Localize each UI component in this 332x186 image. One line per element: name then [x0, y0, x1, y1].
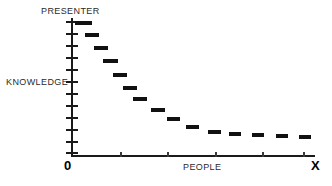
x-axis-tick	[215, 152, 217, 157]
y-axis-tick	[66, 129, 78, 131]
data-point-marker	[208, 130, 221, 134]
x-axis-tick	[167, 152, 169, 157]
data-point-marker	[276, 134, 288, 138]
y-axis-line	[71, 18, 73, 157]
y-axis-top-label: PRESENTER	[41, 7, 100, 16]
y-axis-tick	[66, 33, 78, 35]
data-point-marker	[186, 125, 199, 129]
x-axis-tick	[262, 152, 264, 157]
x-axis-label: PEOPLE	[183, 163, 221, 172]
data-point-marker	[113, 73, 127, 77]
y-axis-tick	[66, 45, 78, 47]
data-point-marker	[123, 86, 137, 90]
x-axis-origin-label: 0	[64, 159, 71, 172]
y-axis-tick	[66, 117, 78, 119]
x-axis-end-label: X	[311, 159, 320, 172]
data-point-marker	[299, 135, 311, 139]
data-point-marker	[75, 21, 92, 25]
y-axis-label: KNOWLEDGE	[6, 78, 68, 87]
data-point-marker	[133, 97, 147, 101]
y-axis-tick	[66, 93, 78, 95]
data-point-marker	[103, 59, 118, 63]
data-point-marker	[252, 133, 264, 137]
data-point-marker	[151, 108, 165, 112]
x-axis-tick	[120, 152, 122, 157]
x-axis-tick	[303, 152, 305, 157]
y-axis-tick	[66, 69, 78, 71]
y-axis-tick	[66, 141, 78, 143]
data-point-marker	[85, 33, 99, 37]
y-axis-tick	[66, 105, 78, 107]
y-axis-tick	[66, 57, 78, 59]
data-point-marker	[94, 46, 108, 50]
y-axis-tick	[66, 152, 78, 154]
data-point-marker	[167, 117, 180, 121]
x-axis-line	[71, 155, 315, 157]
data-point-marker	[229, 132, 241, 136]
chart-canvas: PRESENTER KNOWLEDGE PEOPLE 0 X	[0, 0, 332, 186]
